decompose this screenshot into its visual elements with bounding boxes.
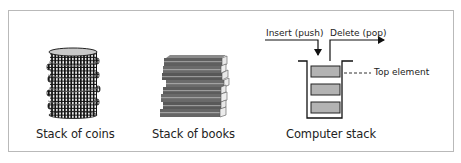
push-arrow-icon <box>265 40 318 55</box>
label-stack-of-books: Stack of books <box>152 127 235 141</box>
stack-element <box>311 84 340 95</box>
stack-elements <box>311 66 340 113</box>
stack-element <box>311 102 340 113</box>
book-stack-icon <box>160 55 229 117</box>
label-computer-stack: Computer stack <box>286 127 376 141</box>
pop-arrow-icon <box>330 40 384 61</box>
label-stack-of-coins: Stack of coins <box>36 127 115 141</box>
insert-push-label: Insert (push) <box>266 28 324 38</box>
delete-pop-label: Delete (pop) <box>330 28 386 38</box>
coin-stack-icon <box>47 48 100 119</box>
top-element-label: Top element <box>374 67 429 77</box>
stack-element-top <box>311 66 340 77</box>
